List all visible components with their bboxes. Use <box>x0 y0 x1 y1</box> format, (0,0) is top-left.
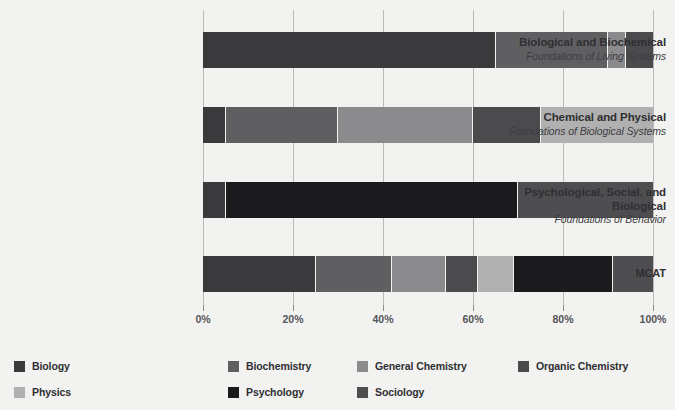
bar-segment[interactable] <box>203 182 226 218</box>
legend-label: Psychology <box>246 386 304 398</box>
legend-label: Sociology <box>375 386 424 398</box>
legend-label: Organic Chemistry <box>536 360 628 372</box>
legend-swatch-icon <box>228 387 239 398</box>
bar-segment[interactable] <box>338 107 473 143</box>
axis-tick-mark <box>293 305 294 311</box>
row-label: MCAT <box>479 267 675 280</box>
legend-swatch-icon <box>14 361 25 372</box>
bar-segment[interactable] <box>392 256 446 292</box>
stacked-bar-chart: 0%20%40%60%80%100% Biological and Bioche… <box>0 0 675 410</box>
row-label: Psychological, Social, and BiologicalFou… <box>479 186 675 226</box>
axis-tick-mark <box>383 305 384 311</box>
axis-tick-label: 0% <box>195 313 210 325</box>
row-label-secondary: Foundations of Behavior <box>479 213 666 225</box>
legend-item[interactable]: Physics <box>14 386 71 398</box>
row-label-primary: MCAT <box>479 267 666 280</box>
axis-tick-mark <box>473 305 474 311</box>
axis-tick-label: 80% <box>552 313 573 325</box>
bar-segment[interactable] <box>226 107 339 143</box>
row-label-primary: Biological and Biochemical <box>479 36 666 50</box>
legend-swatch-icon <box>518 361 529 372</box>
row-label-secondary: Foundations of Living Systems <box>479 50 666 62</box>
axis-tick-label: 20% <box>282 313 303 325</box>
axis-tick-label: 100% <box>640 313 667 325</box>
legend-swatch-icon <box>357 387 368 398</box>
legend-item[interactable]: Biology <box>14 360 70 372</box>
legend-label: Biology <box>32 360 70 372</box>
bar-segment[interactable] <box>203 107 226 143</box>
row-label: Biological and BiochemicalFoundations of… <box>479 36 675 62</box>
legend-label: General Chemistry <box>375 360 467 372</box>
legend-item[interactable]: General Chemistry <box>357 360 467 372</box>
axis-tick-label: 40% <box>372 313 393 325</box>
legend-swatch-icon <box>228 361 239 372</box>
legend-item[interactable]: Organic Chemistry <box>518 360 628 372</box>
chart-legend: BiologyBiochemistryGeneral ChemistryOrga… <box>0 352 675 410</box>
legend-label: Biochemistry <box>246 360 311 372</box>
axis-tick-label: 60% <box>462 313 483 325</box>
bar-segment[interactable] <box>446 256 478 292</box>
legend-item[interactable]: Psychology <box>228 386 304 398</box>
bar-segment[interactable] <box>226 182 519 218</box>
legend-swatch-icon <box>357 361 368 372</box>
legend-item[interactable]: Biochemistry <box>228 360 311 372</box>
bar-segment[interactable] <box>203 32 496 68</box>
row-label-secondary: Foundations of Biological Systems <box>479 125 666 137</box>
axis-tick-mark <box>653 305 654 311</box>
legend-label: Physics <box>32 386 71 398</box>
legend-swatch-icon <box>14 387 25 398</box>
row-label: Chemical and PhysicalFoundations of Biol… <box>479 111 675 137</box>
axis-tick-mark <box>203 305 204 311</box>
bar-segment[interactable] <box>203 256 316 292</box>
bar-segment[interactable] <box>316 256 393 292</box>
row-label-primary: Chemical and Physical <box>479 111 666 125</box>
legend-item[interactable]: Sociology <box>357 386 424 398</box>
row-label-primary: Psychological, Social, and Biological <box>479 186 666 213</box>
axis-tick-mark <box>563 305 564 311</box>
